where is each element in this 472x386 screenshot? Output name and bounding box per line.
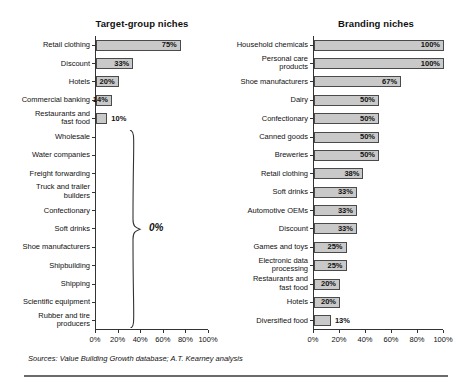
y-axis-tick bbox=[310, 210, 313, 211]
x-axis-tick bbox=[339, 330, 340, 333]
x-axis-right: 0%20%40%60%80%100% bbox=[313, 330, 443, 350]
category-label: Breweries bbox=[232, 151, 308, 160]
y-axis-tick bbox=[310, 173, 313, 174]
y-axis-tick bbox=[310, 228, 313, 229]
bar-value-label: 100% bbox=[421, 41, 440, 49]
x-axis-tick bbox=[391, 330, 392, 333]
bar bbox=[314, 315, 331, 326]
x-axis-tick bbox=[313, 330, 314, 333]
figure-root: Target-group niches 0%20%40%60%80%100% R… bbox=[0, 0, 472, 386]
y-axis-tick bbox=[92, 247, 95, 248]
chart-row: Confectionary bbox=[95, 201, 208, 219]
chart-row: Shipbuilding bbox=[95, 257, 208, 275]
bar-value-label: 50% bbox=[360, 97, 375, 105]
chart-row: Scientific equipment bbox=[95, 293, 208, 311]
x-axis-tick bbox=[185, 330, 186, 333]
bar-value-label: 25% bbox=[327, 244, 342, 252]
category-label: Shipbuilding bbox=[0, 261, 90, 270]
x-axis-tick-label: 0% bbox=[90, 335, 101, 344]
x-axis-tick-label: 100% bbox=[433, 335, 452, 344]
bar-value-label: 33% bbox=[114, 60, 129, 68]
x-axis-tick bbox=[118, 330, 119, 333]
bar-value-label: 14% bbox=[93, 97, 108, 105]
category-label: Automotive OEMs bbox=[232, 206, 308, 215]
y-axis-tick bbox=[310, 247, 313, 248]
y-axis-tick bbox=[310, 302, 313, 303]
category-label: Water companies bbox=[0, 151, 90, 160]
chart-row: Commercial banking14% bbox=[95, 91, 208, 109]
chart-row: Rubber and tire producers bbox=[95, 312, 208, 330]
category-label: Personal care products bbox=[232, 55, 308, 72]
y-axis-tick bbox=[92, 265, 95, 266]
category-label: Canned goods bbox=[232, 133, 308, 142]
category-label: Discount bbox=[0, 59, 90, 68]
x-axis-tick-label: 20% bbox=[331, 335, 346, 344]
y-axis-tick bbox=[310, 265, 313, 266]
category-label: Shoe manufacturers bbox=[232, 78, 308, 87]
category-label: Hotels bbox=[232, 298, 308, 307]
y-axis-tick bbox=[92, 45, 95, 46]
bar-value-label: 50% bbox=[360, 115, 375, 123]
category-label: Confectionary bbox=[232, 114, 308, 123]
chart-row: Truck and trailer builders bbox=[95, 183, 208, 201]
y-axis-tick bbox=[310, 100, 313, 101]
y-axis-tick bbox=[310, 118, 313, 119]
category-label: Rubber and tire producers bbox=[0, 312, 90, 329]
category-label: Diversified food bbox=[232, 317, 308, 326]
bar-value-label: 25% bbox=[327, 262, 342, 270]
plot-area-left: 0%20%40%60%80%100% Retail clothing75%Dis… bbox=[95, 36, 208, 330]
chart-title-left: Target-group niches bbox=[0, 18, 236, 29]
y-axis-tick bbox=[92, 320, 95, 321]
x-axis-tick bbox=[95, 330, 96, 333]
category-label: Restaurants and fast food bbox=[0, 110, 90, 127]
chart-row: Household chemicals100% bbox=[313, 36, 443, 54]
x-axis-tick-label: 40% bbox=[133, 335, 148, 344]
chart-row: Restaurants and fast food20% bbox=[313, 275, 443, 293]
bar-value-label: 38% bbox=[344, 170, 359, 178]
category-label: Retail clothing bbox=[232, 170, 308, 179]
y-axis-tick bbox=[92, 118, 95, 119]
y-axis-tick bbox=[92, 63, 95, 64]
bar-value-label: 50% bbox=[360, 133, 375, 141]
x-axis-tick-label: 80% bbox=[409, 335, 424, 344]
chart-row: Water companies bbox=[95, 146, 208, 164]
chart-row: Soft drinks33% bbox=[313, 183, 443, 201]
category-label: Freight forwarding bbox=[0, 170, 90, 179]
curly-brace-icon bbox=[129, 130, 145, 328]
y-axis-tick bbox=[92, 228, 95, 229]
chart-row: Freight forwarding bbox=[95, 165, 208, 183]
y-axis-tick bbox=[310, 192, 313, 193]
chart-title-right: Branding niches bbox=[236, 18, 472, 29]
x-axis-tick-label: 0% bbox=[308, 335, 319, 344]
chart-row: Wholesale bbox=[95, 128, 208, 146]
y-axis-tick bbox=[310, 137, 313, 138]
bar-value-label: 100% bbox=[421, 60, 440, 68]
chart-row: Games and toys25% bbox=[313, 238, 443, 256]
category-label: Shipping bbox=[0, 280, 90, 289]
chart-row: Restaurants and fast food10% bbox=[95, 110, 208, 128]
category-label: Hotels bbox=[0, 78, 90, 87]
x-axis-tick bbox=[163, 330, 164, 333]
x-axis-tick bbox=[140, 330, 141, 333]
y-axis-tick bbox=[310, 45, 313, 46]
category-label: Household chemicals bbox=[232, 41, 308, 50]
bar-value-label: 75% bbox=[162, 41, 177, 49]
y-axis-tick bbox=[92, 210, 95, 211]
category-label: Discount bbox=[232, 225, 308, 234]
chart-row: Shoe manufacturers67% bbox=[313, 73, 443, 91]
chart-row: Discount33% bbox=[95, 54, 208, 72]
chart-row: Hotels20% bbox=[313, 293, 443, 311]
y-axis-tick bbox=[310, 81, 313, 82]
plot-area-right: 0%20%40%60%80%100% Household chemicals10… bbox=[313, 36, 443, 330]
chart-row: Automotive OEMs33% bbox=[313, 201, 443, 219]
category-label: Dairy bbox=[232, 96, 308, 105]
category-label: Truck and trailer builders bbox=[0, 184, 90, 201]
y-axis-tick bbox=[310, 320, 313, 321]
chart-panel-target-group: Target-group niches 0%20%40%60%80%100% R… bbox=[0, 0, 236, 386]
sources-note: Sources: Value Building Growth database;… bbox=[28, 354, 243, 363]
category-label: Soft drinks bbox=[0, 225, 90, 234]
bar-value-label: 33% bbox=[338, 188, 353, 196]
chart-row: Canned goods50% bbox=[313, 128, 443, 146]
chart-row: Hotels20% bbox=[95, 73, 208, 91]
footer-rule bbox=[24, 375, 448, 377]
